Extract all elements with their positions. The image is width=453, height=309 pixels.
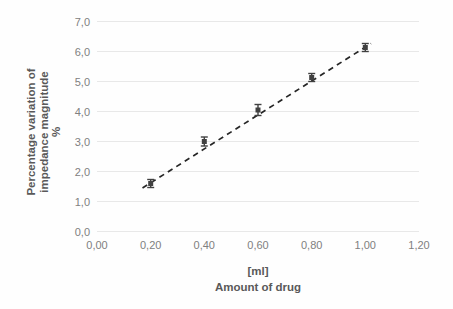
y-axis-title: Percentage variation of impedance magnit… xyxy=(25,68,62,195)
y-axis-title-unit: % xyxy=(50,127,62,137)
data-point-5 xyxy=(362,44,369,52)
chart-figure: 7,0 6,0 5,0 4,0 3,0 2,0 1,0 0,0 0,00 0,2… xyxy=(0,0,453,309)
x-tick-label-4: 0,80 xyxy=(301,239,322,251)
y-tick-label-4: 4,0 xyxy=(75,106,90,118)
y-tick-label-0: 0,0 xyxy=(75,226,90,238)
marker-5 xyxy=(363,45,368,50)
marker-4 xyxy=(309,75,314,80)
data-point-2 xyxy=(201,137,208,146)
y-tick-label-1: 1,0 xyxy=(75,196,90,208)
x-axis-title-unit: [ml] xyxy=(247,265,268,277)
x-tick-label-1: 0,20 xyxy=(140,239,161,251)
data-point-3 xyxy=(255,105,262,116)
y-tick-label-6: 6,0 xyxy=(75,46,90,58)
gridlines xyxy=(97,22,419,232)
y-axis-tick-labels: 7,0 6,0 5,0 4,0 3,0 2,0 1,0 0,0 xyxy=(75,16,90,238)
y-tick-label-7: 7,0 xyxy=(75,16,90,28)
x-tick-label-5: 1,00 xyxy=(355,239,376,251)
x-axis-tick-labels: 0,00 0,20 0,40 0,60 0,80 1,00 1,20 xyxy=(86,239,429,251)
x-tick-label-6: 1,20 xyxy=(408,239,429,251)
y-tick-label-3: 3,0 xyxy=(75,136,90,148)
y-axis-title-line1: Percentage variation of xyxy=(25,68,37,195)
x-axis-title: [ml] Amount of drug xyxy=(215,265,301,293)
y-tick-label-2: 2,0 xyxy=(75,166,90,178)
marker-2 xyxy=(202,139,207,144)
marker-3 xyxy=(256,108,261,113)
y-axis-title-line2: impedance magnitude xyxy=(38,71,50,192)
marker-1 xyxy=(148,181,153,186)
x-tick-label-3: 0,60 xyxy=(247,239,268,251)
chart-plot: 7,0 6,0 5,0 4,0 3,0 2,0 1,0 0,0 0,00 0,2… xyxy=(0,0,453,309)
x-tick-label-2: 0,40 xyxy=(194,239,215,251)
x-tick-label-0: 0,00 xyxy=(86,239,107,251)
x-axis-title-main: Amount of drug xyxy=(215,281,301,293)
data-series xyxy=(147,44,369,188)
y-tick-label-5: 5,0 xyxy=(75,76,90,88)
